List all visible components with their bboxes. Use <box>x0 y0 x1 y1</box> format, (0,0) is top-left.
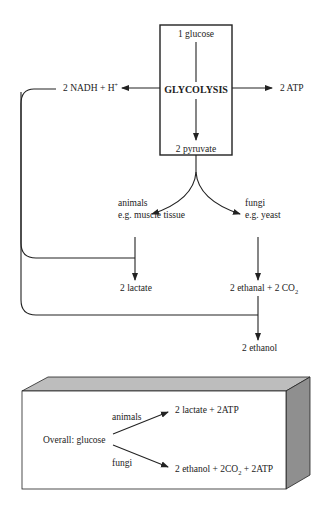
glucose-label: 1 glucose <box>178 29 214 39</box>
summary-box-side <box>286 377 310 489</box>
nadh-recycle-animals <box>21 92 135 258</box>
fungi-example: e.g. yeast <box>245 210 281 220</box>
animals-branch-arrow <box>152 155 196 214</box>
summary-fungi-label: fungi <box>112 458 132 468</box>
overall-glucose-label: Overall: glucose <box>43 435 106 445</box>
ethanal-label: 2 ethanal + 2 CO2 <box>230 283 298 295</box>
summary-box-top <box>22 377 310 391</box>
summary-animals-result: 2 lactate + 2ATP <box>175 405 239 415</box>
glycolysis-label: GLYCOLYSIS <box>164 84 228 95</box>
lactate-label: 2 lactate <box>120 283 152 293</box>
fermentation-diagram: 1 glucose GLYCOLYSIS 2 pyruvate 2 NADH +… <box>0 0 334 509</box>
glycolysis-box: 1 glucose GLYCOLYSIS 2 pyruvate <box>160 25 232 155</box>
fungi-branch-arrow <box>196 172 240 214</box>
fungi-label: fungi <box>245 198 265 208</box>
summary-box: Overall: glucose animals 2 lactate + 2AT… <box>22 377 310 489</box>
nadh-label: 2 NADH + H+ <box>63 82 119 93</box>
summary-animals-label: animals <box>112 412 142 422</box>
animals-example: e.g. muscle tissue <box>118 210 185 220</box>
animals-label: animals <box>118 198 148 208</box>
pyruvate-label: 2 pyruvate <box>176 144 216 154</box>
atp-label: 2 ATP <box>280 83 304 93</box>
ethanol-label: 2 ethanol <box>242 343 277 353</box>
